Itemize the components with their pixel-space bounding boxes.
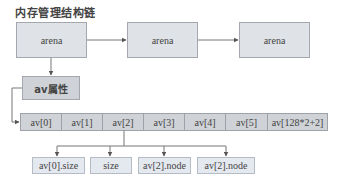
av-cell: av[4] [185, 114, 226, 130]
av-cell: av[1] [62, 114, 103, 130]
av-cell: av[3] [144, 114, 185, 130]
av-property-label: av属性 [34, 81, 67, 96]
av2-child-box: av[2].node [138, 157, 191, 174]
av-property-box: av属性 [22, 76, 80, 100]
av2-child-label: av[2].node [204, 160, 247, 171]
av-cell: av[128*2+2] [268, 114, 327, 130]
av-cell: av[0] [21, 114, 62, 130]
av-cell: av[2] [103, 114, 144, 130]
av-array-row: av[0] av[1] av[2] av[3] av[4] av[5] av[1… [20, 113, 328, 131]
av2-child-label: size [103, 160, 119, 171]
arena-label: arena [152, 35, 174, 46]
av2-child-box: av[2].node [197, 157, 255, 174]
arena-box-1: arena [16, 22, 87, 58]
arena-box-2: arena [127, 22, 198, 58]
arena-label: arena [264, 35, 286, 46]
av2-child-box: av[0].size [32, 157, 85, 174]
arena-label: arena [41, 35, 63, 46]
arena-box-3: arena [239, 22, 310, 58]
av2-child-label: av[0].size [39, 160, 78, 171]
av2-child-box: size [90, 157, 132, 174]
av-cell: av[5] [226, 114, 268, 130]
av2-child-label: av[2].node [143, 160, 186, 171]
